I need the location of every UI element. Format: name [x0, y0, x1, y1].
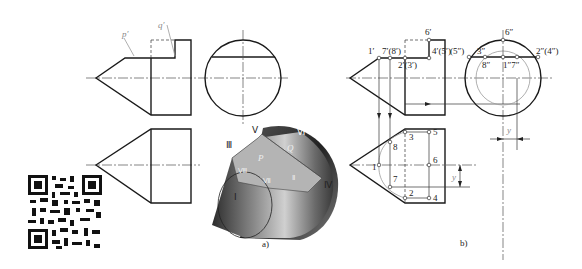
- label-p-prime: p′: [121, 29, 130, 39]
- label-VII: Ⅶ: [263, 177, 271, 185]
- label-4-5-prime: 4′(5′): [432, 46, 451, 56]
- label-VIII: Ⅷ: [238, 167, 247, 175]
- label-6-dprime: 6″: [505, 27, 514, 37]
- label-2-4-dprime: 2″(4″): [536, 46, 559, 56]
- label-2-3-prime: 2′(3′): [398, 60, 417, 70]
- label-y-top: y: [451, 172, 456, 182]
- figure-canvas: p′ q′: [0, 0, 582, 269]
- fig-a-front-view: p′ q′: [86, 20, 290, 115]
- fig-b-front-view: 1′ 7′(8′) 6′ 2′(3′) 4′(5′): [346, 27, 552, 119]
- caption-a: a): [262, 239, 269, 249]
- label-I: Ⅰ: [234, 192, 237, 202]
- label-8-dprime: 8″: [482, 60, 491, 70]
- label-6: 6: [433, 155, 438, 165]
- pictorial-view: Ⅲ Ⅴ Ⅵ Q P Ⅷ Ⅶ Ⅱ Ⅳ Ⅰ: [212, 125, 338, 240]
- label-5-dprime: (5″): [450, 46, 464, 56]
- label-1-7-dprime: 1″7″: [503, 60, 520, 70]
- fig-b-top-view: 1 2 3 4 5 6 7 8 y: [350, 115, 478, 203]
- label-q-prime: q′: [158, 20, 166, 30]
- label-3: 3: [409, 132, 414, 142]
- label-y-side: y: [506, 125, 511, 135]
- fig-a-side-view: [205, 30, 281, 125]
- label-3-dprime: 3″: [477, 46, 486, 56]
- label-II: Ⅱ: [292, 174, 295, 182]
- label-V: Ⅴ: [252, 125, 259, 135]
- qr-code: [28, 175, 102, 249]
- label-1: 1: [372, 162, 377, 172]
- label-2: 2: [409, 188, 414, 198]
- label-IV: Ⅳ: [324, 180, 333, 190]
- fig-b-side-view: (5″) 3″ 6″ 8″ 1″7″ 2″(4″) y: [450, 27, 559, 260]
- fig-a-top-view: [86, 129, 200, 203]
- label-8: 8: [393, 142, 398, 152]
- label-III: Ⅲ: [226, 140, 232, 150]
- caption-b: b): [460, 238, 468, 248]
- label-7: 7: [393, 174, 398, 184]
- label-VI: Ⅵ: [297, 127, 305, 137]
- label-Q: Q: [287, 143, 294, 153]
- label-4: 4: [433, 193, 438, 203]
- label-5: 5: [433, 127, 438, 137]
- label-P: P: [257, 153, 264, 163]
- label-6-prime: 6′: [425, 27, 432, 37]
- label-7-8-prime: 7′(8′): [382, 46, 401, 56]
- label-1-prime: 1′: [368, 46, 375, 56]
